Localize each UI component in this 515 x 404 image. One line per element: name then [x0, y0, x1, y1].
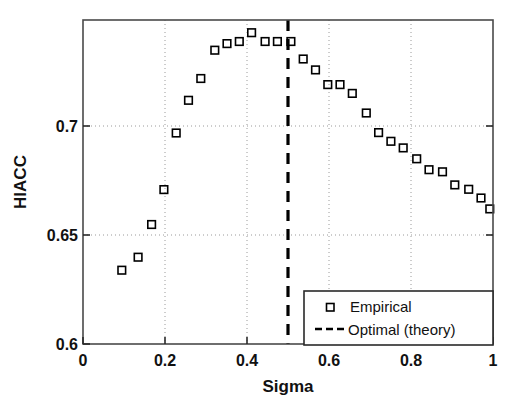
chart-figure: 0 0.2 0.4 0.6 0.8 1 0.6 0.65 0.7 Sigma H… [0, 0, 515, 404]
legend-item-label: Empirical [350, 298, 412, 315]
y-tick-label: 0.6 [56, 336, 78, 353]
x-tick-label: 0.4 [236, 352, 258, 369]
y-axis-title: HIACC [11, 155, 30, 209]
x-tick-label: 1 [489, 352, 498, 369]
chart-legend: Empirical Optimal (theory) [304, 291, 493, 345]
y-tick-label: 0.7 [56, 118, 78, 135]
x-tick-labels: 0 0.2 0.4 0.6 0.8 1 [79, 352, 498, 369]
chart-svg: 0 0.2 0.4 0.6 0.8 1 0.6 0.65 0.7 Sigma H… [0, 0, 515, 404]
x-tick-label: 0.8 [400, 352, 422, 369]
y-tick-labels: 0.6 0.65 0.7 [47, 118, 78, 353]
x-axis-title: Sigma [262, 377, 314, 396]
x-tick-label: 0.6 [318, 352, 340, 369]
legend-item-label: Optimal (theory) [348, 321, 456, 338]
x-tick-label: 0 [79, 352, 88, 369]
x-tick-label: 0.2 [154, 352, 176, 369]
y-tick-label: 0.65 [47, 227, 78, 244]
